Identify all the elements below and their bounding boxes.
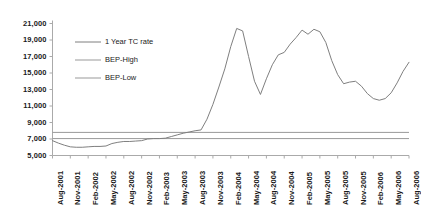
x-axis-tick-label: Aug-2001 [56, 170, 65, 204]
x-axis-tick-label: Aug-2002 [127, 170, 136, 204]
x-axis-tick-label: Feb-2004 [234, 172, 243, 205]
y-axis-tick-label: 15,000 [0, 68, 47, 77]
y-axis-tick-label: 9,000 [0, 118, 47, 127]
y-axis-tick-label: 21,000 [0, 19, 47, 28]
series-line-1-year-tc-rate [53, 28, 410, 147]
y-axis-tick-label: 11,000 [0, 101, 47, 110]
legend-swatch-layer [75, 42, 101, 78]
x-axis-tick-label: May-2003 [180, 170, 189, 204]
x-axis-tick-label: Nov-2004 [287, 171, 296, 205]
x-axis-tick-label: May-2005 [323, 170, 332, 204]
y-axis-tick-label: 7,000 [0, 134, 47, 143]
x-axis-tick-label: Nov-2003 [216, 171, 225, 205]
legend-label: BEP-Low [105, 73, 136, 82]
y-axis-tick-label: 17,000 [0, 52, 47, 61]
data-series-layer [53, 28, 410, 147]
x-axis-tick-label: Aug-2004 [269, 170, 278, 204]
x-axis-tick-label: Feb-2003 [162, 172, 171, 205]
bep-lines-layer [53, 132, 410, 138]
legend-label: BEP-High [105, 55, 138, 64]
x-axis-tick-label: Nov-2005 [359, 171, 368, 205]
legend-label: 1 Year TC rate [105, 37, 153, 46]
x-axis-tick-label: Nov-2001 [73, 171, 82, 205]
x-axis-tick-label: Feb-2002 [91, 172, 100, 205]
x-axis-tick-label: Feb-2005 [305, 172, 314, 205]
x-axis-tick-label: Nov-2002 [145, 171, 154, 205]
x-axis-tick-label: Aug-2005 [341, 170, 350, 204]
x-axis-tick-label: Aug-2003 [198, 170, 207, 204]
x-axis-tick-label: May-2004 [252, 170, 261, 204]
y-axis-tick-label: 13,000 [0, 85, 47, 94]
y-axis-tick-label: 19,000 [0, 35, 47, 44]
x-axis-tick-label: May-2002 [109, 170, 118, 204]
axis-layer [50, 21, 410, 159]
x-axis-tick-label: Feb-2006 [376, 172, 385, 205]
x-axis-tick-label: Aug-2006 [412, 170, 421, 204]
x-axis-tick-label: May-2006 [394, 170, 403, 204]
y-axis-tick-label: 5,000 [0, 151, 47, 160]
